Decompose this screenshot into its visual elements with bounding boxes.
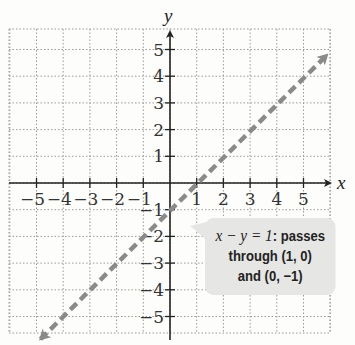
y-tick-label: 4 <box>153 66 164 86</box>
callout-line3: and (0, −1) <box>205 266 336 286</box>
y-tick-label: 1 <box>153 146 164 166</box>
x-tick-label: 2 <box>218 189 229 209</box>
y-axis-label: y <box>162 5 173 26</box>
x-tick-label: −2 <box>100 189 125 209</box>
y-tick-label: 5 <box>153 40 164 60</box>
x-tick-label: −5 <box>20 189 45 209</box>
y-tick-label: 3 <box>153 93 164 113</box>
y-tick-label: −3 <box>139 253 164 273</box>
callout-equation: x − y = 1 <box>216 226 273 245</box>
y-tick-label: 2 <box>153 120 164 140</box>
x-tick-label: 5 <box>298 189 309 209</box>
x-tick-label: 3 <box>245 189 256 209</box>
x-tick-label: −3 <box>73 189 98 209</box>
x-tick-label: −4 <box>47 189 72 209</box>
y-tick-label: −1 <box>139 200 164 220</box>
x-tick-label: 1 <box>191 189 202 209</box>
x-axis-label: x <box>336 172 346 193</box>
x-tick-label: 4 <box>271 189 282 209</box>
callout-line2: through (1, 0) <box>205 246 336 266</box>
callout-line1: : passes <box>273 228 325 244</box>
annotation-callout: x − y = 1: passes through (1, 0) and (0,… <box>205 218 336 295</box>
y-tick-label: −5 <box>139 307 164 327</box>
y-tick-label: −4 <box>139 280 164 300</box>
